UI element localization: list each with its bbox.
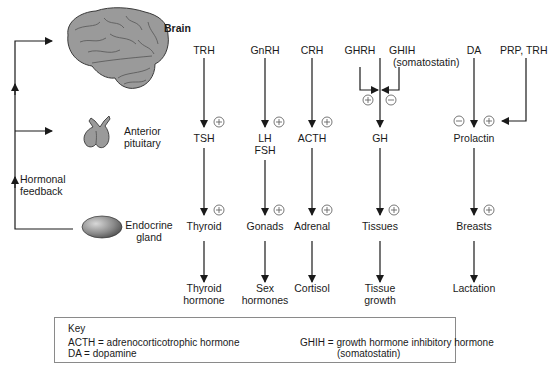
sex-hormones-line1: Sex xyxy=(240,282,290,294)
gh-label: GH xyxy=(360,132,400,144)
thyroid-hormone-line1: Thyroid xyxy=(179,282,229,294)
lh-label: LH xyxy=(245,132,285,144)
da-label: DA xyxy=(459,44,489,56)
prp-trh-label: PRP, TRH xyxy=(500,44,547,56)
thyroid-label: Thyroid xyxy=(179,220,229,232)
key-title: Key xyxy=(68,323,85,334)
gland-label-line1: Endocrine xyxy=(124,219,174,231)
ghih-label: GHIH xyxy=(389,44,415,56)
gonads-label: Gonads xyxy=(240,220,290,232)
ghrh-label: GHRH xyxy=(340,44,380,56)
key-box: Key ACTH = adrenocorticotrophic hormone … xyxy=(54,317,456,363)
somatostatin-label: (somatostatin) xyxy=(393,56,460,68)
minus-icon xyxy=(388,100,462,121)
prolactin-label: Prolactin xyxy=(444,132,504,144)
pathway-arrows xyxy=(204,58,526,282)
key-ghih: GHIH = growth hormone inhibitory hormone xyxy=(300,337,494,348)
key-da: DA = dopamine xyxy=(68,348,137,359)
acth-label: ACTH xyxy=(292,132,332,144)
tissues-label: Tissues xyxy=(355,220,405,232)
adrenal-label: Adrenal xyxy=(287,220,337,232)
breasts-label: Breasts xyxy=(444,220,504,232)
endocrine-gland-icon xyxy=(82,216,122,238)
crh-label: CRH xyxy=(292,44,332,56)
trh-label: TRH xyxy=(184,44,224,56)
gnrh-label: GnRH xyxy=(245,44,285,56)
key-acth: ACTH = adrenocorticotrophic hormone xyxy=(68,337,239,348)
lactation-label: Lactation xyxy=(444,282,504,294)
sex-hormones-line2: hormones xyxy=(240,294,290,306)
feedback-loop xyxy=(15,41,73,229)
pituitary-label-line2: pituitary xyxy=(124,137,161,149)
pituitary-icon xyxy=(84,116,110,148)
thyroid-hormone-line2: hormone xyxy=(179,294,229,306)
tissue-growth-line2: growth xyxy=(355,294,405,306)
feedback-label-line2: feedback xyxy=(20,185,63,197)
fsh-label: FSH xyxy=(245,144,285,156)
brain-label: Brain xyxy=(164,22,191,34)
key-ghih-somatostatin: (somatostatin) xyxy=(337,348,400,359)
feedback-label-line1: Hormonal xyxy=(20,173,66,185)
gland-label-line2: gland xyxy=(124,231,174,243)
brain-icon xyxy=(68,8,169,89)
pituitary-label-line1: Anterior xyxy=(124,125,161,137)
tsh-label: TSH xyxy=(184,132,224,144)
tissue-growth-line1: Tissue xyxy=(355,282,405,294)
cortisol-label: Cortisol xyxy=(287,282,337,294)
